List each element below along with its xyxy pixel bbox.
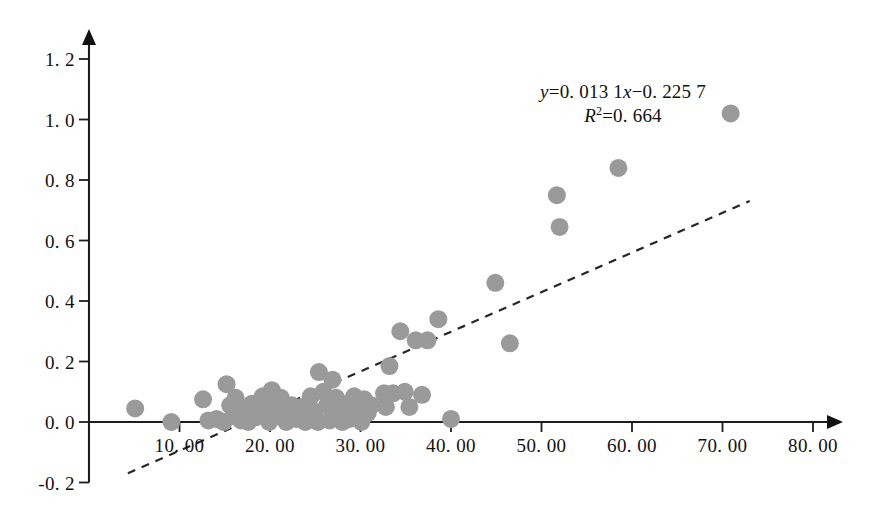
regression-equation: y=0. 013 1x−0. 225 7 (498, 80, 748, 104)
data-point (609, 159, 627, 177)
y-tick-label: 0. 2 (45, 353, 75, 372)
data-point (396, 383, 414, 401)
equation-slope-text: =0. 013 1 (549, 81, 623, 102)
data-point (548, 186, 566, 204)
y-tick-label: 0. 0 (45, 413, 75, 432)
data-point (418, 331, 436, 349)
data-point (442, 410, 460, 428)
equation-intercept-text: −0. 225 7 (632, 81, 706, 102)
equation-x-variable: x (623, 81, 632, 102)
equation-y-variable: y (540, 81, 549, 102)
data-point (126, 399, 144, 417)
data-point (429, 310, 447, 328)
data-points-group (126, 104, 739, 431)
y-tick-label: 0. 6 (45, 232, 75, 251)
y-tick-label: 0. 8 (45, 171, 75, 190)
data-point (413, 386, 431, 404)
trendline-group (128, 201, 750, 473)
y-tick-label: 1. 0 (45, 111, 75, 130)
r-squared-line: R2=0. 664 (498, 104, 748, 129)
x-tick-label: 80. 00 (753, 436, 873, 455)
y-tick-label: -0. 2 (38, 474, 75, 493)
data-point (486, 274, 504, 292)
y-tick-label: 1. 2 (45, 50, 75, 69)
r-squared-symbol: R (584, 106, 596, 127)
data-point (194, 390, 212, 408)
scatter-chart: 1. 21. 00. 80. 60. 40. 20. 0-0. 2 10. 00… (0, 0, 893, 525)
data-point (162, 413, 180, 431)
data-point (501, 334, 519, 352)
data-point (551, 218, 569, 236)
regression-annotation: y=0. 013 1x−0. 225 7 R2=0. 664 (498, 80, 748, 129)
data-point (391, 322, 409, 340)
y-tick-label: 0. 4 (45, 292, 75, 311)
r-squared-value: =0. 664 (602, 106, 662, 127)
data-point (380, 357, 398, 375)
data-point (323, 371, 341, 389)
